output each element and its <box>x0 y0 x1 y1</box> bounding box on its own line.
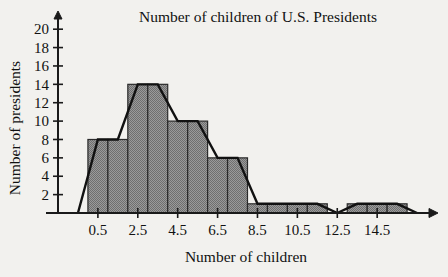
y-tick-label: 20 <box>34 21 49 37</box>
y-tick-label: 18 <box>34 40 49 56</box>
y-axis-label: Number of presidents <box>6 61 23 195</box>
y-tick-label: 14 <box>34 77 50 93</box>
y-tick-label: 12 <box>34 95 49 111</box>
y-tick-label: 6 <box>42 150 50 166</box>
x-tick-label: 4.5 <box>168 222 187 238</box>
histogram-bar <box>108 139 128 213</box>
x-tick-label: 0.5 <box>89 222 108 238</box>
x-axis-arrow-icon <box>429 209 438 218</box>
x-tick-label: 8.5 <box>248 222 267 238</box>
y-tick-label: 8 <box>42 132 50 148</box>
histogram-bar <box>88 139 108 213</box>
y-tick-label: 10 <box>34 113 49 129</box>
y-axis-arrow-icon <box>54 11 62 19</box>
histogram-bar <box>228 158 248 213</box>
histogram-bar <box>168 121 188 213</box>
x-tick-label: 6.5 <box>208 222 227 238</box>
bars-group <box>88 84 407 213</box>
x-axis-label: Number of children <box>185 248 307 265</box>
histogram-bar <box>387 204 407 213</box>
x-tick-label: 10.5 <box>284 222 310 238</box>
y-tick-label: 16 <box>34 58 50 74</box>
histogram-bar <box>307 204 327 213</box>
y-tick-label: 4 <box>42 168 50 184</box>
y-tick-label: 2 <box>42 187 50 203</box>
histogram-bar <box>208 158 228 213</box>
histogram-bar <box>347 204 367 213</box>
histogram-chart: 24681012141618200.52.54.56.58.510.512.51… <box>0 0 448 277</box>
histogram-bar <box>148 84 168 213</box>
x-tick-label: 14.5 <box>364 222 390 238</box>
chart-container: 24681012141618200.52.54.56.58.510.512.51… <box>0 0 448 277</box>
histogram-bar <box>267 204 287 213</box>
chart-title: Number of children of U.S. Presidents <box>139 8 377 25</box>
x-tick-label: 12.5 <box>324 222 350 238</box>
x-tick-label: 2.5 <box>128 222 147 238</box>
